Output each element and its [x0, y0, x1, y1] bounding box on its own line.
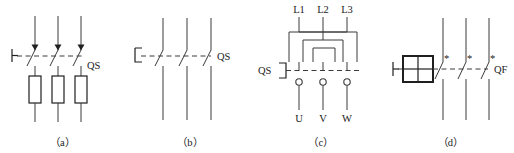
device-label-qs: QS — [87, 60, 101, 71]
device-label-qs: QS — [258, 65, 272, 76]
device-label-qf: QF — [494, 64, 508, 75]
arrow-down-icon — [55, 45, 62, 51]
fuse-symbol — [75, 76, 87, 103]
fuse-symbol — [52, 76, 64, 103]
asterisk-icon: * — [490, 53, 495, 64]
device-label-qs: QS — [217, 51, 231, 62]
input-leads — [299, 17, 347, 40]
panel-caption: （a） — [0, 134, 125, 149]
output-label-u: U — [295, 113, 303, 124]
pole-3 — [73, 16, 87, 122]
pole-2 — [179, 18, 187, 120]
terminal-circle — [320, 79, 326, 85]
panel-d: * * * QF （d） — [387, 0, 514, 153]
panel-caption: （d） — [387, 134, 514, 149]
panel-caption: （b） — [125, 134, 255, 149]
asterisk-icon: * — [467, 53, 472, 64]
arrow-down-icon — [32, 45, 39, 51]
panel-caption: （c） — [255, 134, 387, 149]
pole-1 — [155, 18, 163, 120]
bracket-actuator-icon — [279, 63, 286, 78]
input-label-l2: L2 — [317, 4, 329, 15]
mechanism-box-icon — [403, 56, 433, 82]
output-pole-v: V — [319, 79, 327, 124]
output-pole-u: U — [295, 79, 303, 124]
panel-a: QS （a） — [0, 0, 125, 153]
crossover-inner — [303, 40, 343, 62]
pole-3 — [203, 18, 211, 120]
figure-sheet: QS （a） Q — [0, 0, 514, 153]
pole-1 — [27, 16, 41, 122]
panel-c: L1 L2 L3 — [255, 0, 387, 153]
output-label-v: V — [319, 113, 327, 124]
terminal-circle — [344, 79, 350, 85]
arrow-down-icon — [78, 45, 85, 51]
input-label-l1: L1 — [293, 4, 305, 15]
contact-stubs — [299, 62, 347, 70]
panel-b: QS （b） — [125, 0, 255, 153]
output-pole-w: W — [342, 79, 352, 124]
fuse-symbol — [29, 76, 41, 103]
bracket-actuator-icon — [135, 48, 142, 62]
pole-2 — [50, 16, 64, 122]
terminal-circle — [296, 79, 302, 85]
output-label-w: W — [342, 113, 352, 124]
input-label-l3: L3 — [341, 4, 353, 15]
asterisk-icon: * — [444, 53, 449, 64]
